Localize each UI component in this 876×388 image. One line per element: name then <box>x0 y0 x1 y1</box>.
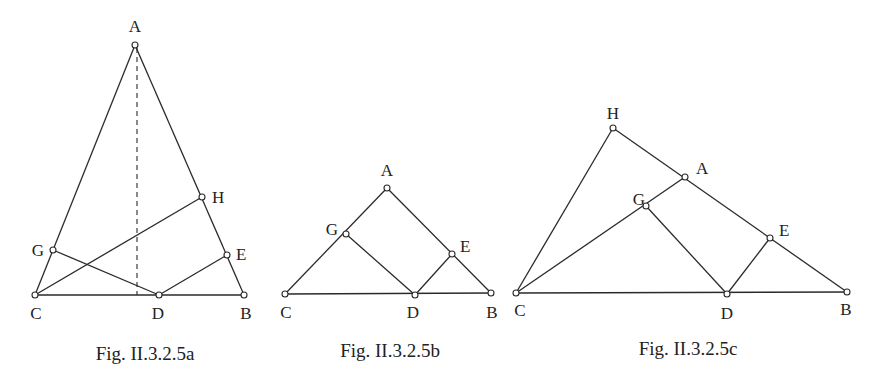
point-label-d: D <box>407 303 419 322</box>
point-label-b: B <box>840 300 851 319</box>
point-e <box>449 251 455 257</box>
point-label-b: B <box>240 304 251 323</box>
figure-caption: Fig. II.3.2.5c <box>639 338 738 359</box>
figure-caption: Fig. II.3.2.5b <box>340 340 440 361</box>
figure-a: AHGECDBFig. II.3.2.5a <box>30 17 251 364</box>
figure-b: AGECDBFig. II.3.2.5b <box>280 161 497 361</box>
segment-GD <box>346 234 415 295</box>
point-label-c: C <box>280 303 291 322</box>
point-label-d: D <box>152 304 164 323</box>
segment-HB <box>613 128 847 292</box>
figure-caption: Fig. II.3.2.5a <box>96 343 195 364</box>
segment-DE <box>415 254 452 295</box>
segment-AC <box>35 45 135 295</box>
point-label-a: A <box>381 161 394 180</box>
point-label-g: G <box>633 190 645 209</box>
segment-CH <box>516 128 613 293</box>
point-label-c: C <box>514 301 525 320</box>
segment-DE <box>727 238 770 294</box>
point-e <box>224 252 230 258</box>
point-d <box>724 291 730 297</box>
segment-CB <box>516 292 847 293</box>
point-label-a: A <box>129 17 142 36</box>
point-e <box>767 235 773 241</box>
figure-c: HAGECDBFig. II.3.2.5c <box>513 104 852 359</box>
point-label-h: H <box>212 188 224 207</box>
segment-CA <box>516 177 685 293</box>
point-h <box>199 194 205 200</box>
point-d <box>156 292 162 298</box>
point-label-c: C <box>30 304 41 323</box>
geometry-figures-canvas: AHGECDBFig. II.3.2.5aAGECDBFig. II.3.2.5… <box>0 0 876 388</box>
point-label-d: D <box>721 304 733 323</box>
point-g <box>50 247 56 253</box>
segment-CB <box>285 293 491 294</box>
point-b <box>488 290 494 296</box>
segment-GD <box>646 206 727 294</box>
point-label-g: G <box>326 220 338 239</box>
point-label-e: E <box>779 221 789 240</box>
segment-CH <box>35 197 202 295</box>
point-label-b: B <box>486 303 497 322</box>
point-label-g: G <box>32 241 44 260</box>
point-c <box>513 290 519 296</box>
point-a <box>132 42 138 48</box>
point-a <box>682 174 688 180</box>
point-h <box>610 125 616 131</box>
point-c <box>282 291 288 297</box>
segment-AC <box>285 188 387 294</box>
point-g <box>343 231 349 237</box>
point-c <box>32 292 38 298</box>
segment-GD <box>53 250 159 295</box>
point-b <box>241 292 247 298</box>
point-a <box>384 185 390 191</box>
point-label-h: H <box>607 104 619 123</box>
segment-DE <box>159 255 227 295</box>
point-d <box>412 292 418 298</box>
point-label-e: E <box>460 237 470 256</box>
point-label-e: E <box>236 245 246 264</box>
segment-AB <box>387 188 491 293</box>
point-b <box>844 289 850 295</box>
point-label-a: A <box>696 159 709 178</box>
